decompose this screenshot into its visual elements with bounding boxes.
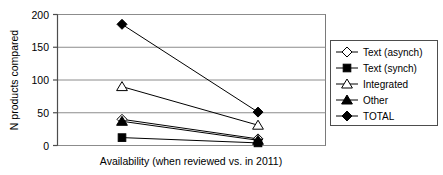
y-tick-label-150: 150: [31, 41, 49, 53]
legend-label-integrated: Integrated: [363, 79, 408, 90]
legend-label-text-asynch: Text (asynch): [363, 47, 422, 58]
x-axis-title: Availability (when reviewed vs. in 2011): [100, 155, 282, 167]
chart-figure: 200 150 100 50 0 N products compared Ava…: [0, 0, 443, 175]
legend-label-total: TOTAL: [363, 111, 395, 122]
data-point-text-synch-0: [118, 134, 126, 142]
legend-item-integrated[interactable]: Integrated: [336, 79, 408, 90]
chart-legend: Text (asynch) Text (synch) Integrated Ot…: [331, 41, 438, 126]
y-axis-title: N products compared: [8, 30, 20, 131]
y-tick-label-0: 0: [43, 140, 49, 152]
legend-label-other: Other: [363, 95, 389, 106]
line-chart: 200 150 100 50 0 N products compared Ava…: [0, 0, 443, 175]
data-point-text-synch-1: [254, 139, 262, 147]
legend-item-text-synch[interactable]: Text (synch): [336, 63, 417, 74]
legend-label-text-synch: Text (synch): [363, 63, 417, 74]
y-tick-label-100: 100: [31, 74, 49, 86]
y-tick-label-200: 200: [31, 9, 49, 21]
y-axis-ticks: [53, 15, 58, 146]
filled-square-icon: [343, 64, 351, 72]
y-tick-label-50: 50: [37, 107, 49, 119]
